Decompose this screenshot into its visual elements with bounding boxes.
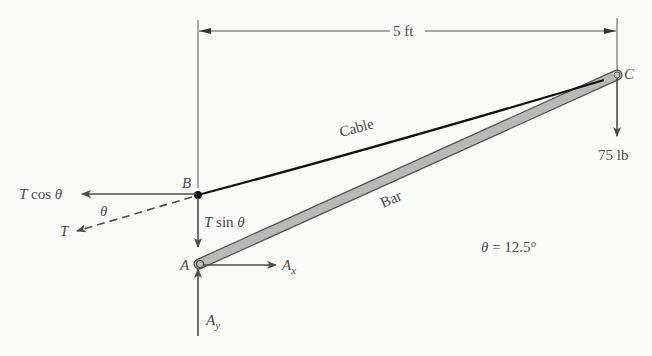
bar-label: Bar (378, 187, 404, 210)
free-body-diagram: 5 ft B A C Cable Bar T cos θ θ T T sin θ… (0, 0, 652, 356)
pin-c (614, 72, 620, 78)
dimension-label: 5 ft (393, 23, 414, 39)
point-label-b: B (182, 175, 191, 191)
joint-b (194, 191, 202, 199)
load-label: 75 lb (598, 147, 628, 163)
t-dashed-arrow (77, 197, 192, 231)
ay-label: Ay (205, 312, 220, 331)
pin-a (197, 261, 204, 268)
cable-label: Cable (338, 115, 376, 140)
theta-angle-label: θ (100, 203, 108, 219)
t-label: T (60, 223, 70, 239)
theta-value: θ = 12.5° (481, 239, 537, 255)
point-label-a: A (179, 257, 190, 273)
t-cos-label: T cos θ (19, 186, 63, 202)
bar (199, 75, 617, 264)
point-label-c: C (624, 66, 635, 82)
ax-label: Ax (281, 257, 296, 276)
t-sin-label: T sin θ (204, 214, 245, 230)
